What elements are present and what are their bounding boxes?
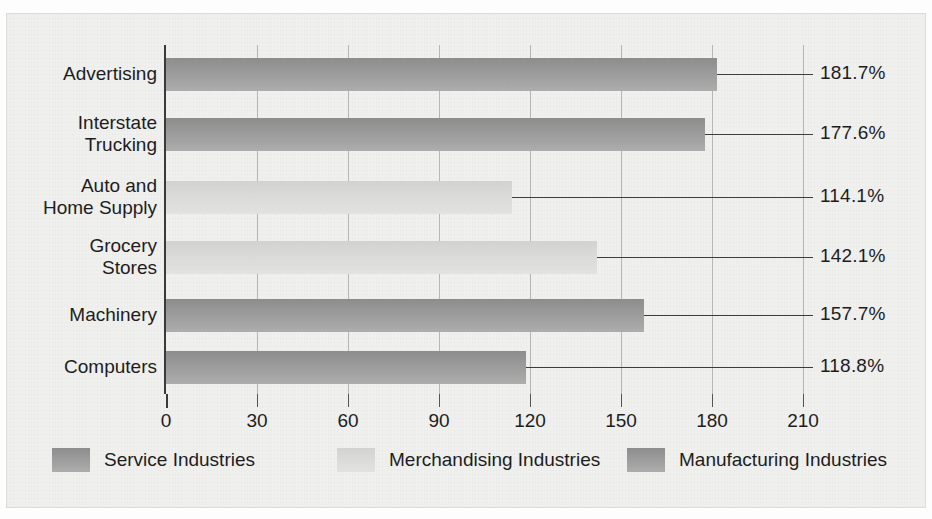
gridline-30 — [257, 45, 258, 394]
x-tick-120 — [530, 394, 531, 407]
legend-item-merchandising[interactable]: Merchandising Industries — [337, 448, 600, 472]
x-tick-label-90: 90 — [428, 410, 449, 432]
bar-interstate-trucking — [166, 118, 705, 151]
chart-legend: Service IndustriesMerchandising Industri… — [7, 448, 926, 488]
gridline-210 — [803, 45, 804, 394]
legend-swatch-icon — [627, 448, 665, 472]
legend-item-manufacturing[interactable]: Manufacturing Industries — [627, 448, 887, 472]
category-label: Advertising — [63, 63, 157, 85]
category-label: Auto and Home Supply — [43, 175, 157, 219]
legend-swatch-icon — [337, 448, 375, 472]
gridline-90 — [439, 45, 440, 394]
x-tick-150 — [621, 394, 622, 407]
x-tick-90 — [439, 394, 440, 407]
category-label: Interstate Trucking — [78, 112, 157, 156]
bar-advertising — [166, 58, 717, 91]
gridline-60 — [348, 45, 349, 394]
leader-line — [644, 315, 813, 316]
legend-swatch-icon — [52, 448, 90, 472]
x-tick-label-60: 60 — [337, 410, 358, 432]
gridline-120 — [530, 45, 531, 394]
x-tick-label-150: 150 — [605, 410, 637, 432]
x-tick-0 — [166, 394, 168, 408]
category-label: Machinery — [69, 304, 157, 326]
leader-line — [512, 197, 813, 198]
leader-line — [705, 134, 813, 135]
y-axis-line — [164, 45, 166, 394]
value-label: 181.7% — [820, 62, 886, 84]
value-label: 114.1% — [820, 185, 884, 207]
leader-line — [526, 367, 813, 368]
category-axis-labels: AdvertisingInterstate TruckingAuto and H… — [7, 45, 157, 394]
value-label: 177.6% — [820, 122, 886, 144]
gridline-150 — [621, 45, 622, 394]
plot-area — [164, 45, 809, 394]
x-tick-30 — [257, 394, 258, 407]
x-tick-label-210: 210 — [787, 410, 819, 432]
category-label: Computers — [64, 356, 157, 378]
x-axis: 0306090120150180210 — [164, 394, 824, 454]
x-tick-label-180: 180 — [696, 410, 728, 432]
category-label: Grocery Stores — [89, 235, 157, 279]
value-label: 118.8% — [820, 355, 884, 377]
x-tick-label-120: 120 — [514, 410, 546, 432]
leader-line — [597, 257, 813, 258]
bar-computers — [166, 351, 526, 384]
bar-machinery — [166, 299, 644, 332]
value-label: 142.1% — [820, 245, 886, 267]
chart-panel: AdvertisingInterstate TruckingAuto and H… — [6, 13, 926, 508]
legend-item-service[interactable]: Service Industries — [52, 448, 255, 472]
legend-label: Merchandising Industries — [389, 449, 600, 471]
x-tick-60 — [348, 394, 349, 407]
chart-page: AdvertisingInterstate TruckingAuto and H… — [0, 0, 932, 519]
x-tick-label-0: 0 — [161, 410, 172, 432]
legend-label: Service Industries — [104, 449, 255, 471]
bar-auto-and-home-supply — [166, 181, 512, 214]
bar-grocery-stores — [166, 241, 597, 274]
value-label: 157.7% — [820, 303, 886, 325]
x-tick-210 — [803, 394, 804, 407]
gridline-180 — [712, 45, 713, 394]
legend-label: Manufacturing Industries — [679, 449, 887, 471]
x-tick-180 — [712, 394, 713, 407]
x-tick-label-30: 30 — [246, 410, 267, 432]
leader-line — [717, 74, 813, 75]
